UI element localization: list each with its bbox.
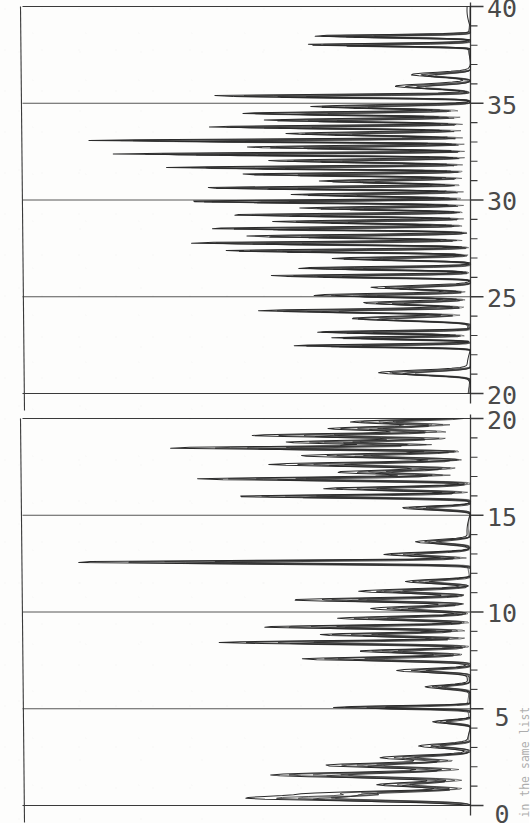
panel-top-rule [20, 418, 24, 822]
tick-label-bottom-40: 40 [486, 0, 516, 22]
tick-label-top-5: 5 [494, 703, 509, 732]
tick-label-top-15: 15 [486, 502, 516, 531]
spectrum-plot-top [0, 412, 529, 823]
spectrum-panel-top: 0 5 10 15 20 [0, 412, 529, 823]
tick-label-bottom-20: 20 [486, 380, 516, 409]
figure-caption: in the same list [517, 5, 531, 817]
spectrum-plot-bottom [0, 0, 529, 411]
tick-label-top-10: 10 [486, 599, 516, 628]
panel-top-rule [20, 6, 24, 410]
spectrum-panel-bottom: 20 25 30 35 40 [0, 0, 529, 411]
tick-label-bottom-25: 25 [486, 284, 516, 313]
tick-label-bottom-35: 35 [486, 90, 516, 119]
tick-label-top-0: 0 [494, 800, 509, 823]
tick-label-bottom-30: 30 [486, 187, 516, 216]
